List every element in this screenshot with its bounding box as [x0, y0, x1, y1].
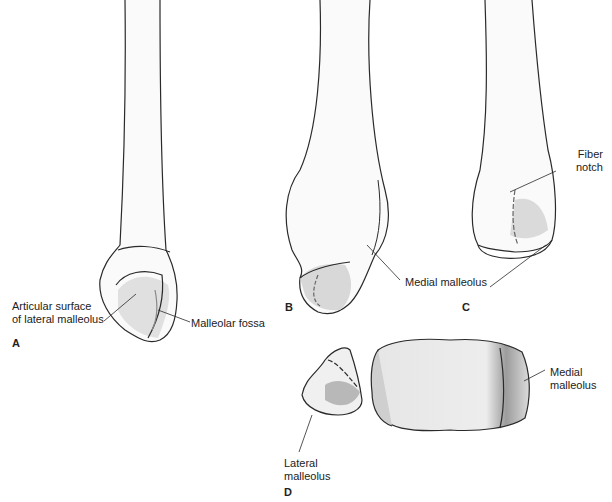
- label-malleolar-fossa: Malleolar fossa: [191, 317, 265, 330]
- panel-letter-b: B: [285, 301, 293, 313]
- panel-letter-c: C: [462, 301, 470, 313]
- label-medial-malleolus-d: Medial malleolus: [550, 366, 596, 392]
- label-medial-malleolus-b: Medial malleolus: [405, 276, 487, 289]
- label-articular-surface: Articular surface of lateral malleolus: [12, 300, 104, 326]
- distal-view-drawing-d: [302, 339, 529, 430]
- panel-letter-a: A: [12, 337, 20, 349]
- panel-letter-d: D: [284, 486, 292, 498]
- anatomy-figure: [0, 0, 612, 502]
- label-fiber-notch: Fiber notch: [576, 148, 603, 174]
- label-lateral-malleolus: Lateral malleolus: [284, 457, 330, 483]
- tibia-drawing-c: [472, 0, 555, 258]
- tibia-drawing-b: [286, 0, 388, 314]
- fibula-drawing-a: [100, 0, 177, 342]
